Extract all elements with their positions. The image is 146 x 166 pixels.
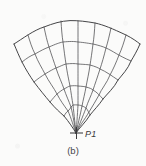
mesh-row-2 <box>34 64 118 82</box>
mesh-column-7 <box>76 35 126 133</box>
mesh-row-1 <box>22 41 131 62</box>
mesh-column-3 <box>61 21 76 133</box>
mesh-rows <box>14 21 140 116</box>
surface-mesh-figure: P1 (b) <box>0 0 146 166</box>
mesh-column-left-edge <box>14 44 76 133</box>
mesh-row-top-edge <box>14 21 140 44</box>
mesh-row-3 <box>50 86 103 102</box>
mesh-column-5 <box>76 23 95 133</box>
point-label-p1: P1 <box>85 130 96 139</box>
mesh-columns <box>14 21 140 133</box>
figure-caption: (b) <box>0 146 146 156</box>
cross-marker <box>70 127 83 139</box>
mesh-column-4 <box>76 21 78 133</box>
surface-mesh-wireframe <box>0 0 146 166</box>
